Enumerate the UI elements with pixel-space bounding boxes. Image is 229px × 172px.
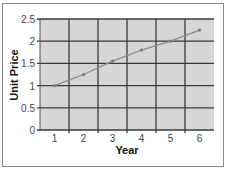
x-axis: 123456 <box>52 133 203 144</box>
y-axis-title: Unit Price <box>8 49 20 100</box>
y-tick-label: 2.5 <box>21 14 35 25</box>
y-axis: 00.511.522.5 <box>21 14 35 136</box>
data-point <box>169 40 172 43</box>
x-axis-title: Year <box>115 144 139 156</box>
y-tick-label: 0.5 <box>21 103 35 114</box>
y-tick-label: 2 <box>29 36 35 47</box>
x-tick-label: 3 <box>110 133 116 144</box>
y-tick-label: 1 <box>29 81 35 92</box>
y-tick-label: 1.5 <box>21 58 35 69</box>
plot-area <box>37 19 214 133</box>
data-point <box>198 29 201 32</box>
data-point <box>82 73 85 76</box>
x-tick-label: 4 <box>139 133 145 144</box>
x-tick-label: 5 <box>168 133 174 144</box>
data-point <box>111 60 114 63</box>
data-point <box>140 48 143 51</box>
x-tick-label: 2 <box>81 133 87 144</box>
data-point <box>53 84 56 87</box>
x-tick-label: 1 <box>52 133 58 144</box>
line-chart: 00.511.522.5 123456 Unit Price Year <box>0 0 229 172</box>
x-tick-label: 6 <box>197 133 203 144</box>
y-tick-label: 0 <box>29 125 35 136</box>
